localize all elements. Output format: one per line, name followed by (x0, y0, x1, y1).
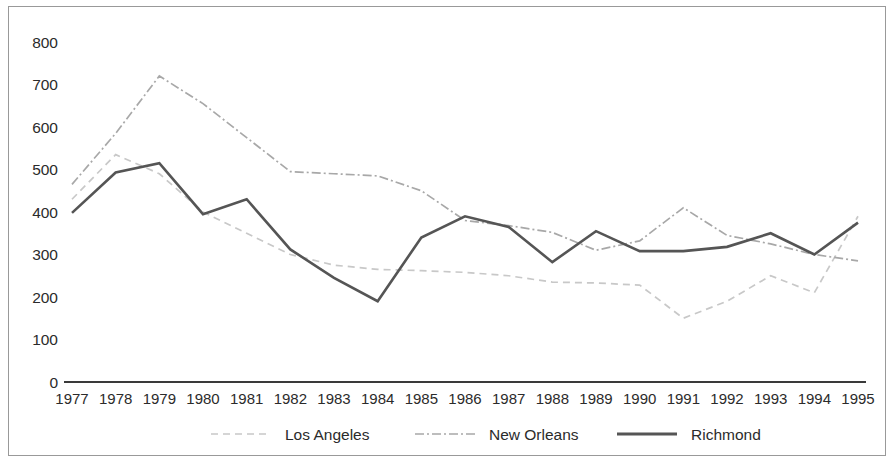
y-axis-tick-label: 700 (32, 76, 58, 93)
series-line-richmond (72, 163, 858, 301)
chart-legend: Los AngelesNew OrleansRichmond (211, 426, 761, 443)
x-axis-tick-label: 1978 (99, 390, 132, 407)
x-axis-tick-label: 1984 (361, 390, 394, 407)
x-axis-tick-label: 1987 (492, 390, 525, 407)
x-axis-tick-label: 1988 (536, 390, 569, 407)
x-axis-tick-label: 1977 (55, 390, 88, 407)
x-axis-tick-label: 1990 (623, 390, 656, 407)
x-axis-tick-label: 1994 (798, 390, 831, 407)
y-axis-tick-label: 800 (32, 34, 58, 51)
legend-item-richmond[interactable]: Richmond (617, 426, 761, 443)
series-group (72, 76, 858, 318)
legend-item-new-orleans[interactable]: New Orleans (415, 426, 579, 443)
y-axis-tick-label: 200 (32, 289, 58, 306)
x-axis-tick-label: 1983 (317, 390, 350, 407)
x-axis-tick-label: 1989 (579, 390, 612, 407)
x-axis-tick-label: 1992 (710, 390, 743, 407)
x-axis-tick-label: 1995 (841, 390, 874, 407)
series-line-los-angeles (72, 155, 858, 319)
y-axis-tick-label: 0 (49, 374, 58, 391)
x-axis-tick-label: 1980 (186, 390, 219, 407)
y-axis-tick-label: 300 (32, 246, 58, 263)
x-axis-tick-labels: 1977197819791980198119821983198419851986… (55, 390, 874, 407)
y-axis-tick-label: 400 (32, 204, 58, 221)
x-axis-tick-label: 1993 (754, 390, 787, 407)
y-axis-tick-label: 600 (32, 119, 58, 136)
x-axis-tick-label: 1982 (274, 390, 307, 407)
line-chart: 0100200300400500600700800 19771978197919… (0, 0, 896, 467)
legend-label: Richmond (691, 426, 761, 443)
x-axis-tick-label: 1991 (667, 390, 700, 407)
series-line-new-orleans (72, 76, 858, 261)
x-axis-tick-label: 1986 (448, 390, 481, 407)
chart-page: 0100200300400500600700800 19771978197919… (0, 0, 896, 467)
y-axis-tick-label: 500 (32, 161, 58, 178)
y-axis-tick-labels: 0100200300400500600700800 (32, 34, 58, 391)
legend-item-los-angeles[interactable]: Los Angeles (211, 426, 370, 443)
x-axis-tick-label: 1979 (143, 390, 176, 407)
x-axis-tick-label: 1985 (405, 390, 438, 407)
x-axis-tick-label: 1981 (230, 390, 263, 407)
y-axis-tick-label: 100 (32, 331, 58, 348)
legend-label: New Orleans (489, 426, 579, 443)
legend-label: Los Angeles (285, 426, 370, 443)
